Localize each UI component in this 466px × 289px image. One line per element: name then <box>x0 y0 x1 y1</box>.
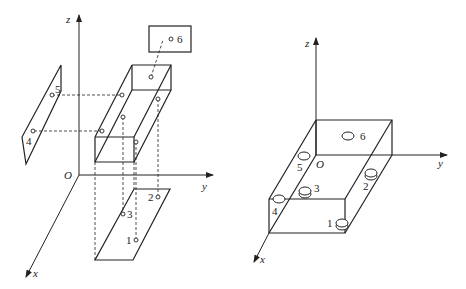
prism <box>95 65 171 162</box>
point-3-xy <box>121 212 125 216</box>
point-2-xy <box>156 195 160 199</box>
left-label-2: 2 <box>148 191 154 203</box>
projection-plane-xz <box>22 65 61 164</box>
left-origin-label: O <box>64 169 72 181</box>
point-5-xz <box>50 93 54 97</box>
figure-canvas: z O y x 6 5 4 2 3 1 <box>0 0 466 289</box>
hole-2 <box>365 169 377 180</box>
right-label-5: 5 <box>297 161 303 173</box>
point-1-xy <box>134 238 138 242</box>
right-label-4: 4 <box>272 205 278 217</box>
right-label-3: 3 <box>314 182 320 194</box>
point-4-xz <box>31 129 35 133</box>
right-label-2: 2 <box>363 180 369 192</box>
point-6-yz <box>169 37 173 41</box>
left-y-label: y <box>201 180 207 192</box>
right-z-label: z <box>304 37 310 49</box>
left-x-label: x <box>32 267 38 279</box>
projection-plane-xy <box>95 189 170 260</box>
left-label-1: 1 <box>126 234 132 246</box>
left-label-3: 3 <box>127 208 133 220</box>
right-label-6: 6 <box>360 130 366 142</box>
point-3-prism <box>121 115 125 119</box>
hole-3 <box>299 187 311 198</box>
left-label-5: 5 <box>55 83 61 95</box>
point-5-prism <box>120 93 124 97</box>
right-x-label: x <box>259 253 265 265</box>
hole-4 <box>273 195 285 203</box>
x-axis <box>26 175 79 277</box>
right-y-label: y <box>437 157 443 169</box>
left-label-6: 6 <box>177 33 183 45</box>
hole-1 <box>336 219 348 230</box>
left-diagram <box>22 15 213 277</box>
point-2-prism <box>156 97 160 101</box>
point-6-prism <box>149 75 153 79</box>
hole-5 <box>298 152 310 160</box>
right-diagram <box>254 38 447 262</box>
right-label-1: 1 <box>327 217 333 229</box>
hole-6 <box>342 132 354 140</box>
left-label-4: 4 <box>26 135 32 147</box>
projection-lines <box>34 40 163 260</box>
right-origin-label: O <box>316 158 324 170</box>
point-4-prism <box>100 129 104 133</box>
point-1-prism <box>134 140 138 144</box>
left-z-label: z <box>65 13 71 25</box>
